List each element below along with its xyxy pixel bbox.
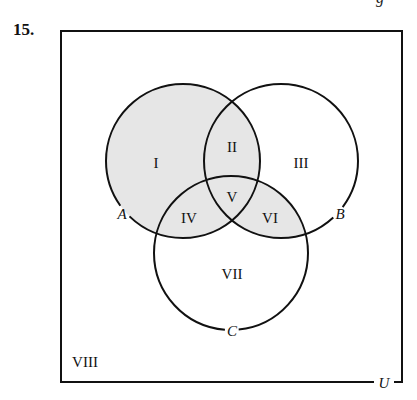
region-label-v: V bbox=[227, 189, 238, 205]
universe-label-u: U bbox=[379, 375, 391, 391]
region-label-ii: II bbox=[227, 139, 237, 155]
region-label-i: I bbox=[154, 155, 159, 171]
region-label-iii: III bbox=[294, 155, 309, 171]
set-label-a: A bbox=[116, 206, 127, 222]
set-label-c: C bbox=[227, 323, 238, 339]
region-label-vii: VII bbox=[222, 266, 243, 282]
set-label-b: B bbox=[335, 206, 344, 222]
region-label-viii: VIII bbox=[72, 354, 98, 370]
venn-diagram: I II III IV V VI VII VIII A B C U bbox=[0, 0, 417, 400]
shaded-region bbox=[106, 84, 308, 330]
region-label-vi: VI bbox=[262, 210, 278, 226]
region-label-iv: IV bbox=[181, 210, 197, 226]
